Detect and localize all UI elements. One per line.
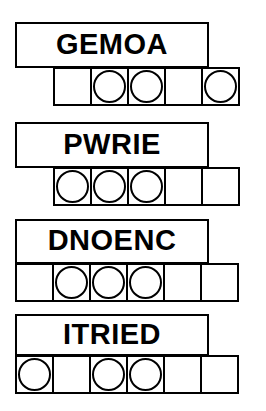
answer-cell-letter	[202, 265, 237, 300]
answer-cell-letter	[128, 357, 163, 392]
answer-cell[interactable]	[201, 167, 240, 206]
scrambled-word-text: DNOENC	[48, 226, 177, 255]
answer-cell-circled[interactable]	[127, 167, 166, 206]
scrambled-word-box: PWRIE	[15, 122, 209, 168]
answer-cell-letter	[202, 357, 237, 392]
answer-strip	[15, 355, 239, 394]
answer-cell[interactable]	[164, 167, 203, 206]
answer-cell-letter	[92, 169, 127, 204]
answer-cell[interactable]	[200, 263, 239, 302]
answer-cell-circled[interactable]	[52, 263, 91, 302]
answer-cell-circled[interactable]	[126, 355, 165, 394]
answer-cell-circled[interactable]	[53, 167, 92, 206]
answer-cell-letter	[54, 265, 89, 300]
answer-strip	[15, 263, 239, 302]
answer-cell-letter	[92, 69, 127, 104]
answer-cell-letter	[17, 357, 52, 392]
scrambled-word-box: GEMOA	[15, 22, 209, 68]
answer-cell-circled[interactable]	[90, 167, 129, 206]
scrambled-word-box: ITRIED	[15, 314, 209, 356]
answer-cell-letter	[129, 169, 164, 204]
answer-cell[interactable]	[163, 263, 202, 302]
answer-cell-letter	[166, 169, 201, 204]
answer-cell-letter	[128, 265, 163, 300]
answer-cell-circled[interactable]	[201, 67, 240, 106]
answer-cell-letter	[55, 69, 90, 104]
answer-cell-circled[interactable]	[126, 263, 165, 302]
answer-cell-circled[interactable]	[15, 355, 54, 394]
answer-cell-letter	[91, 265, 126, 300]
answer-cell-circled[interactable]	[89, 355, 128, 394]
scrambled-word-box: DNOENC	[15, 219, 209, 264]
puzzle-sheet: GEMOAPWRIEDNOENCITRIED	[0, 0, 266, 411]
answer-cell-letter	[203, 69, 238, 104]
answer-cell-letter	[166, 69, 201, 104]
answer-cell-circled[interactable]	[127, 67, 166, 106]
answer-cell-circled[interactable]	[89, 263, 128, 302]
answer-cell[interactable]	[53, 67, 92, 106]
answer-strip	[53, 167, 240, 206]
answer-cell[interactable]	[163, 355, 202, 394]
answer-cell[interactable]	[200, 355, 239, 394]
answer-cell-letter	[54, 357, 89, 392]
answer-cell-letter	[17, 265, 52, 300]
answer-cell-letter	[165, 265, 200, 300]
answer-cell[interactable]	[52, 355, 91, 394]
scrambled-word-text: GEMOA	[56, 30, 168, 59]
answer-cell-circled[interactable]	[90, 67, 129, 106]
answer-cell[interactable]	[15, 263, 54, 302]
answer-cell-letter	[165, 357, 200, 392]
answer-strip	[53, 67, 240, 106]
answer-cell-letter	[91, 357, 126, 392]
answer-cell-letter	[55, 169, 90, 204]
scrambled-word-text: PWRIE	[63, 130, 161, 159]
answer-cell[interactable]	[164, 67, 203, 106]
answer-cell-letter	[203, 169, 238, 204]
scrambled-word-text: ITRIED	[63, 320, 161, 349]
answer-cell-letter	[129, 69, 164, 104]
